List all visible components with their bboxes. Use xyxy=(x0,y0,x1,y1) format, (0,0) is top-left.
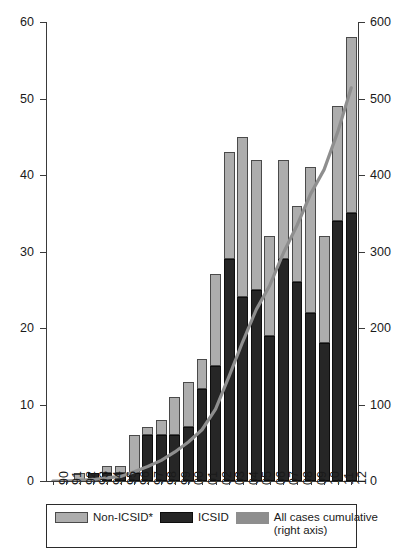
x-axis-label: 98 xyxy=(166,471,178,485)
x-axis-label: 91 xyxy=(71,471,83,485)
bar-group xyxy=(224,22,235,481)
bar-segment-non-icsid xyxy=(237,137,248,298)
legend-swatch-non-icsid xyxy=(55,512,88,523)
x-axis-tick xyxy=(188,481,189,485)
bar-group xyxy=(292,22,303,481)
x-axis-label: 01 xyxy=(207,471,219,485)
x-axis-label: 07 xyxy=(288,471,300,485)
y-axis-left-label: 50 xyxy=(20,93,34,105)
y-axis-left-tick xyxy=(40,481,46,482)
legend-label-cumulative: All cases cumulative (right axis) xyxy=(274,511,378,537)
bar-segment-icsid xyxy=(332,221,343,481)
x-axis-label: 90 xyxy=(58,471,70,485)
bar-segment-non-icsid xyxy=(210,274,221,366)
legend-label-cumulative-line2: (right axis) xyxy=(274,524,328,536)
x-axis-label: 05 xyxy=(261,471,273,485)
bar-segment-icsid xyxy=(346,213,357,481)
legend-swatch-cumulative xyxy=(236,512,269,524)
bar-segment-non-icsid xyxy=(224,152,235,259)
bar-segment-non-icsid xyxy=(346,37,357,213)
bar-segment-icsid xyxy=(319,343,330,481)
bar-segment-icsid xyxy=(292,282,303,481)
bar-group xyxy=(142,22,153,481)
chart-root: 0102030405060 0100200300400500600 909192… xyxy=(0,0,413,554)
x-axis-label: 09 xyxy=(316,471,328,485)
bar-segment-non-icsid xyxy=(305,167,316,312)
x-axis-label: 03 xyxy=(234,471,246,485)
y-axis-right-label: 200 xyxy=(370,322,391,334)
y-axis-right-label: 300 xyxy=(370,246,391,258)
legend-item-non-icsid: Non-ICSID* xyxy=(55,511,153,524)
y-axis-right-tick xyxy=(359,22,365,23)
bar-segment-icsid xyxy=(210,366,221,481)
legend-label-non-icsid: Non-ICSID* xyxy=(93,511,153,524)
bar-group xyxy=(319,22,330,481)
y-axis-right-tick xyxy=(359,405,365,406)
x-axis-tick xyxy=(134,481,135,485)
x-axis-label: 10 xyxy=(329,471,341,485)
y-axis-left-label: 0 xyxy=(27,475,34,487)
x-axis-tick xyxy=(93,481,94,485)
x-axis-tick xyxy=(202,481,203,485)
bar-segment-non-icsid xyxy=(142,427,153,435)
x-axis-label: 92 xyxy=(85,471,97,485)
bar-segment-non-icsid xyxy=(278,160,289,259)
bar-segment-non-icsid xyxy=(264,236,275,335)
bar-group xyxy=(183,22,194,481)
bar-group xyxy=(264,22,275,481)
y-axis-right-label: 100 xyxy=(370,399,391,411)
y-axis-left-label: 40 xyxy=(20,169,34,181)
x-axis-tick xyxy=(175,481,176,485)
bar-group xyxy=(197,22,208,481)
x-axis-label: 94 xyxy=(112,471,124,485)
x-axis-tick xyxy=(121,481,122,485)
x-axis-tick xyxy=(338,481,339,485)
bar-segment-non-icsid xyxy=(169,397,180,435)
chart-legend: Non-ICSID* ICSID All cases cumulative (r… xyxy=(46,504,357,548)
bar-segment-non-icsid xyxy=(183,382,194,428)
bar-segment-icsid xyxy=(224,259,235,481)
bar-group xyxy=(237,22,248,481)
x-axis-label: 12 xyxy=(356,471,368,485)
legend-label-icsid: ICSID xyxy=(198,511,229,524)
bar-group xyxy=(169,22,180,481)
legend-swatch-icsid xyxy=(160,512,193,523)
x-axis-label: 02 xyxy=(221,471,233,485)
y-axis-right-label: 600 xyxy=(370,16,391,28)
x-axis-tick xyxy=(270,481,271,485)
legend-items: Non-ICSID* ICSID All cases cumulative (r… xyxy=(47,505,356,537)
legend-item-icsid: ICSID xyxy=(160,511,229,524)
bar-segment-non-icsid xyxy=(129,435,140,473)
bar-segment-icsid xyxy=(197,389,208,481)
bar-group xyxy=(61,22,72,481)
y-axis-right-label: 400 xyxy=(370,169,391,181)
x-axis-tick xyxy=(161,481,162,485)
x-axis-label: 11 xyxy=(343,472,355,485)
bar-segment-icsid xyxy=(237,297,248,481)
bar-group xyxy=(210,22,221,481)
bar-segment-non-icsid xyxy=(292,206,303,283)
y-axis-left-label: 60 xyxy=(20,16,34,28)
y-axis-right-tick xyxy=(359,175,365,176)
bar-group xyxy=(156,22,167,481)
bar-segment-non-icsid xyxy=(332,106,343,221)
bar-segment-non-icsid xyxy=(319,236,330,343)
x-axis-tick xyxy=(148,481,149,485)
y-axis-left-label: 20 xyxy=(20,322,34,334)
x-axis-tick xyxy=(216,481,217,485)
bar-segment-non-icsid xyxy=(251,160,262,290)
x-axis-label: 95 xyxy=(126,471,138,485)
bar-segment-non-icsid xyxy=(156,420,167,435)
bar-group xyxy=(251,22,262,481)
x-axis-label: 00 xyxy=(193,471,205,485)
bar-group xyxy=(346,22,357,481)
bar-group xyxy=(305,22,316,481)
x-axis-tick xyxy=(66,481,67,485)
x-axis-label: 93 xyxy=(98,471,110,485)
bar-group xyxy=(88,22,99,481)
x-axis-label: 96 xyxy=(139,471,151,485)
legend-item-cumulative: All cases cumulative (right axis) xyxy=(236,511,378,537)
y-axis-right-tick xyxy=(359,252,365,253)
x-axis-tick xyxy=(229,481,230,485)
x-axis-tick xyxy=(53,481,54,485)
